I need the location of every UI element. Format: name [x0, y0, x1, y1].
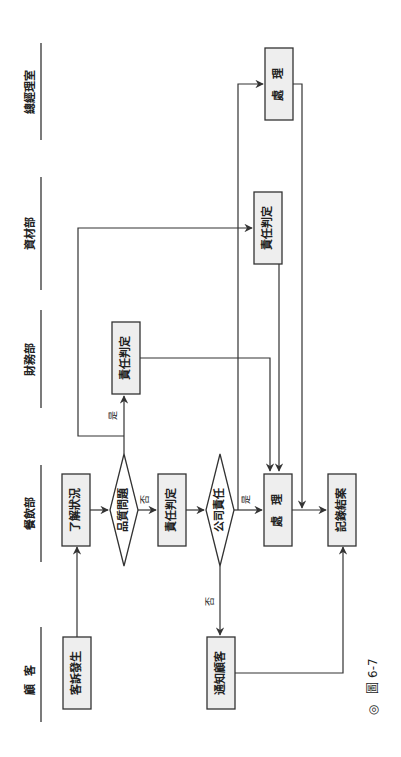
- node-complaint: 客訴發生: [63, 637, 91, 709]
- node-label: 品質問題: [116, 487, 130, 532]
- node-resp-fnb: 責任判定: [158, 474, 186, 546]
- lane-label-materials: 資材部: [23, 217, 37, 250]
- edge-company-handle-gm: [238, 84, 263, 510]
- node-resp-finance: 責任判定: [112, 322, 140, 394]
- node-understand: 了解狀況: [62, 474, 90, 546]
- node-label: 通知顧客: [213, 650, 227, 695]
- node-notify-customer: 通知顧客: [207, 637, 235, 709]
- node-company-question: 公司責任: [206, 454, 234, 566]
- lane-customer: 顧客: [23, 627, 41, 722]
- lane-fnb: 餐飲部: [23, 465, 41, 562]
- edge-label-no-quality: 否: [140, 495, 150, 504]
- node-label: 記錄結案: [334, 487, 348, 532]
- node-handle-fnb: 處 理: [264, 474, 292, 546]
- lane-materials: 資材部: [23, 177, 41, 290]
- node-label: 處 理: [270, 494, 284, 527]
- edge-label-no-company: 否: [205, 597, 215, 606]
- flowchart-canvas: 總經理室 資材部 財務部 餐飲部 顧客: [0, 0, 401, 757]
- lane-label-finance: 財務部: [23, 343, 37, 377]
- node-label: 責任判定: [118, 336, 132, 380]
- node-label: 了解狀況: [68, 488, 82, 532]
- lane-label-customer: 顧客: [23, 657, 37, 695]
- lane-finance: 財務部: [23, 310, 41, 408]
- caption-marker: ◎: [366, 705, 380, 715]
- edge-quality-resp-materials: [78, 228, 252, 436]
- node-handle-gm: 處 理: [265, 48, 293, 120]
- node-label: 客訴發生: [69, 651, 83, 696]
- caption-label: 圖 6-7: [366, 658, 380, 693]
- lane-gm: 總經理室: [23, 43, 41, 140]
- lane-label-fnb: 餐飲部: [23, 497, 37, 531]
- node-label: 責任判定: [260, 206, 274, 250]
- node-quality-question: 品質問題: [110, 454, 138, 566]
- edge-label-yes-quality: 是: [108, 411, 118, 420]
- edge-notify-record: [235, 547, 343, 673]
- edge-resp-finance-handle: [140, 358, 270, 471]
- node-resp-materials: 責任判定: [254, 192, 282, 264]
- node-label: 公司責任: [212, 488, 226, 532]
- lane-label-gm: 總經理室: [23, 70, 37, 114]
- figure-caption: ◎ 圖 6-7: [366, 658, 380, 715]
- node-label: 責任判定: [164, 488, 178, 532]
- edge-handle-gm-record: [293, 84, 302, 508]
- node-label: 處 理: [271, 68, 285, 101]
- edge-label-yes-company: 是: [241, 495, 251, 504]
- node-record-close: 記錄結案: [328, 474, 356, 546]
